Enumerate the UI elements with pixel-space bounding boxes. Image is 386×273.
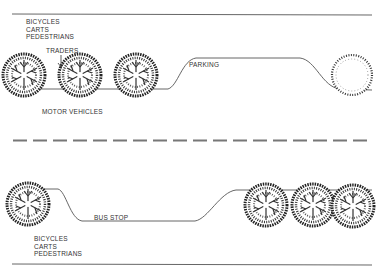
tree-icon xyxy=(3,54,45,96)
upper-lane-labels: BICYCLES CARTS PEDESTRIANS xyxy=(26,18,74,41)
label-pedestrians: PEDESTRIANS xyxy=(34,250,82,258)
label-parking: PARKING xyxy=(189,61,219,69)
tree-icon xyxy=(7,183,49,225)
bottom-boundary-line xyxy=(12,264,372,265)
label-carts: CARTS xyxy=(26,26,74,34)
label-bus-stop: BUS STOP xyxy=(94,214,128,222)
tree-icon xyxy=(59,54,101,96)
diagram-lines xyxy=(0,0,386,273)
street-diagram: BICYCLES CARTS PEDESTRIANS TRADERS PARKI… xyxy=(0,0,386,273)
label-bicycles: BICYCLES xyxy=(34,235,82,243)
label-carts: CARTS xyxy=(34,243,82,251)
lower-lane-labels: BICYCLES CARTS PEDESTRIANS xyxy=(34,235,82,258)
tree-icon xyxy=(292,184,334,226)
tree-icon xyxy=(332,55,372,95)
label-motor-vehicles: MOTOR VEHICLES xyxy=(42,108,103,116)
top-boundary-line xyxy=(12,14,372,15)
label-bicycles: BICYCLES xyxy=(26,18,74,26)
tree-icon xyxy=(115,54,157,96)
label-pedestrians: PEDESTRIANS xyxy=(26,33,74,41)
tree-icon xyxy=(332,185,374,227)
label-traders: TRADERS xyxy=(46,47,78,55)
tree-icon xyxy=(245,184,287,226)
